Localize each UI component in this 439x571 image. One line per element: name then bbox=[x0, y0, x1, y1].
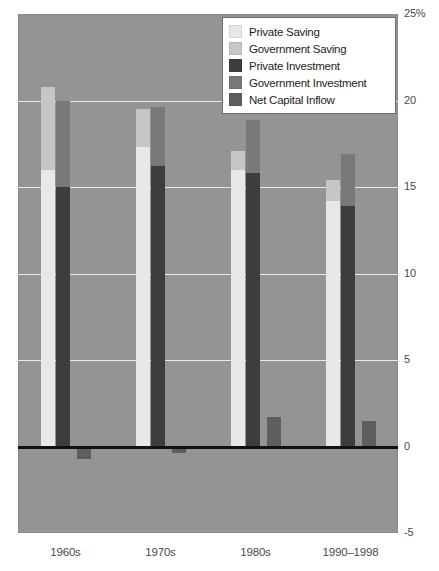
y-tick-label-5: 5 bbox=[404, 353, 410, 365]
legend-swatch-icon-0 bbox=[229, 25, 242, 38]
legend-item-4[interactable]: Net Capital Inflow bbox=[229, 91, 389, 108]
x-tick-label-1: 1970s bbox=[113, 546, 208, 558]
bar-private-saving-0 bbox=[41, 170, 55, 447]
bar-private-saving-3 bbox=[326, 201, 340, 447]
legend-swatch-icon-2 bbox=[229, 59, 242, 72]
bar-net-capital-inflow-2 bbox=[267, 417, 281, 446]
legend-label-1: Government Saving bbox=[249, 43, 346, 55]
legend-item-3[interactable]: Government Investment bbox=[229, 74, 389, 91]
y-tick-label-20: 20 bbox=[404, 94, 416, 106]
y-tick-label-15: 15 bbox=[404, 180, 416, 192]
x-tick-label-0: 1960s bbox=[18, 546, 113, 558]
bar-private-investment-1 bbox=[151, 166, 165, 446]
y-tick-label-0: 0 bbox=[404, 440, 410, 452]
bar-private-investment-0 bbox=[56, 187, 70, 447]
legend-label-2: Private Investment bbox=[249, 60, 340, 72]
x-tick-label-2: 1980s bbox=[208, 546, 303, 558]
zero-line bbox=[18, 446, 398, 449]
y-tick-label--5: -5 bbox=[404, 526, 413, 538]
bar-government-investment-0 bbox=[56, 101, 70, 188]
legend-label-3: Government Investment bbox=[249, 77, 366, 89]
bar-government-saving-0 bbox=[41, 87, 55, 170]
bar-government-investment-2 bbox=[246, 120, 260, 174]
legend-swatch-icon-1 bbox=[229, 42, 242, 55]
legend-items: Private SavingGovernment SavingPrivate I… bbox=[229, 23, 389, 108]
legend-item-0[interactable]: Private Saving bbox=[229, 23, 389, 40]
legend-label-4: Net Capital Inflow bbox=[249, 94, 335, 106]
bar-government-saving-2 bbox=[231, 151, 245, 170]
x-tick-label-3: 1990–1998 bbox=[303, 546, 398, 558]
legend-swatch-icon-3 bbox=[229, 76, 242, 89]
bar-government-investment-3 bbox=[341, 154, 355, 206]
bar-private-saving-2 bbox=[231, 170, 245, 447]
y-tick-label-25: 25% bbox=[404, 7, 425, 19]
chart-root: 25%20151050-5 1960s1970s1980s1990–1998 P… bbox=[0, 0, 439, 571]
y-tick-label-10: 10 bbox=[404, 267, 416, 279]
legend-label-0: Private Saving bbox=[249, 26, 320, 38]
legend-item-1[interactable]: Government Saving bbox=[229, 40, 389, 57]
bar-private-investment-2 bbox=[246, 173, 260, 446]
legend-swatch-icon-4 bbox=[229, 93, 242, 106]
legend-item-2[interactable]: Private Investment bbox=[229, 57, 389, 74]
bar-government-saving-3 bbox=[326, 180, 340, 201]
bar-government-saving-1 bbox=[136, 109, 150, 147]
bar-private-investment-3 bbox=[341, 206, 355, 447]
bar-government-investment-1 bbox=[151, 107, 165, 166]
bar-private-saving-1 bbox=[136, 147, 150, 446]
bar-net-capital-inflow-3 bbox=[362, 421, 376, 447]
legend: Private SavingGovernment SavingPrivate I… bbox=[222, 17, 396, 114]
